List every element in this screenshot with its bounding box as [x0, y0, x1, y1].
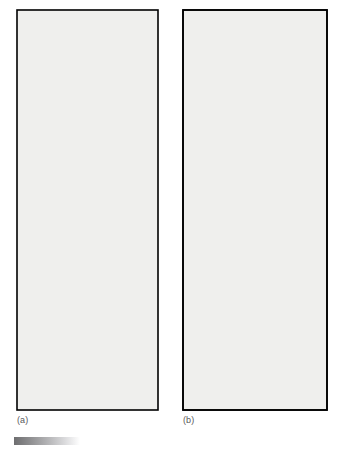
figure-root: (a) (b): [0, 0, 342, 452]
panel-b-frame: [183, 10, 327, 410]
panel-b-group: [183, 10, 327, 410]
panel-b-caption: (b): [183, 415, 194, 425]
figure-canvas: [0, 0, 342, 452]
gradient-bar: [14, 437, 80, 445]
panel-a-caption: (a): [17, 415, 28, 425]
panel-a-group: [17, 10, 158, 410]
panel-a-frame: [17, 10, 158, 410]
